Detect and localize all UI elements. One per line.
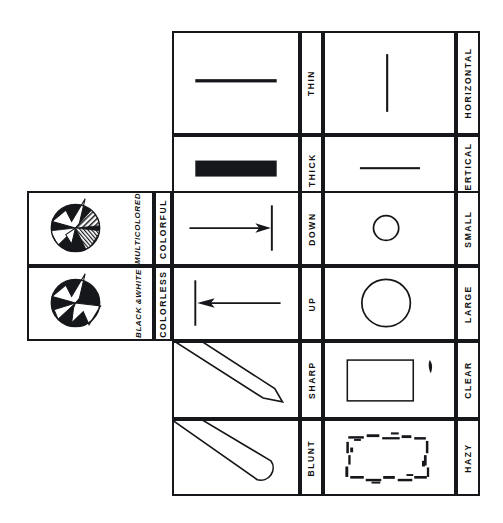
rounded-wedge-icon — [174, 421, 298, 494]
picture-cell-black-and-white: BLACK &WHITE — [27, 266, 154, 341]
label-cell-large: LARGE — [456, 266, 480, 341]
diagram-sheet: THIN THICK HORIZONTAL VERTICAL — [0, 0, 503, 523]
crisp-rectangle-icon — [325, 343, 454, 417]
picture-cell-hazy — [323, 419, 456, 496]
thin-horizontal-bar-icon — [174, 33, 298, 133]
label-down: DOWN — [302, 193, 321, 264]
label-colorless: COLORLESS — [156, 268, 170, 339]
picture-cell-up — [172, 266, 300, 341]
picture-cell-small — [323, 191, 456, 266]
label-cell-clear: CLEAR — [456, 341, 480, 419]
label-cell-hazy: HAZY — [456, 419, 480, 496]
arrow-left-to-bar-icon — [174, 268, 298, 339]
label-thin: THIN — [302, 33, 321, 133]
label-cell-colorless: COLORLESS — [154, 266, 172, 341]
label-small: SMALL — [458, 193, 478, 264]
picture-cell-down — [172, 191, 300, 266]
broken-outline-rectangle-icon — [325, 421, 454, 494]
picture-cell-horizontal — [323, 31, 456, 135]
arrow-right-to-bar-icon — [174, 193, 298, 264]
picture-cell-sharp — [172, 341, 300, 419]
label-blunt: BLUNT — [302, 421, 321, 494]
label-cell-horizontal: HORIZONTAL — [456, 31, 480, 135]
label-horizontal: HORIZONTAL — [458, 33, 478, 133]
picture-cell-clear — [323, 341, 456, 419]
caption-multicolored: MULTICOLORED — [128, 193, 148, 264]
label-cell-blunt: BLUNT — [300, 419, 323, 496]
picture-cell-blunt — [172, 419, 300, 496]
label-up: UP — [302, 268, 321, 339]
label-cell-sharp: SHARP — [300, 341, 323, 419]
label-cell-colorful: COLORFUL — [154, 191, 172, 266]
vertical-stroke-icon — [325, 33, 454, 133]
pointed-wedge-icon — [174, 343, 298, 417]
caption-black-and-white: BLACK &WHITE — [128, 268, 148, 339]
picture-cell-large — [323, 266, 456, 341]
picture-cell-multicolored: MULTICOLORED — [27, 191, 154, 266]
label-cell-thin: THIN — [300, 31, 323, 135]
label-hazy: HAZY — [458, 421, 478, 494]
label-cell-small: SMALL — [456, 191, 480, 266]
label-cell-up: UP — [300, 266, 323, 341]
label-cell-down: DOWN — [300, 191, 323, 266]
label-clear: CLEAR — [458, 343, 478, 417]
label-colorful: COLORFUL — [156, 193, 170, 264]
large-circle-icon — [325, 268, 454, 339]
label-sharp: SHARP — [302, 343, 321, 417]
label-large: LARGE — [458, 268, 478, 339]
picture-cell-thin — [172, 31, 300, 135]
small-circle-icon — [325, 193, 454, 264]
